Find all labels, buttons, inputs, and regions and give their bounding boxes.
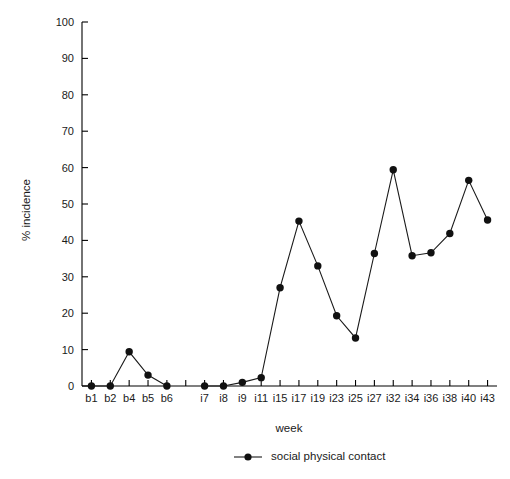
y-axis-tick-label: 50	[62, 198, 74, 210]
data-point	[276, 284, 283, 291]
x-axis-tick-label: i25	[348, 392, 363, 404]
data-point	[163, 382, 170, 389]
data-point	[201, 382, 208, 389]
x-axis-tick-labels: b1b2b4b5b6i7i8i9i11i15i17i19i23i25i27i32…	[85, 392, 495, 404]
y-axis-title: % incidence	[20, 179, 32, 241]
x-axis-tick-label: b5	[142, 392, 154, 404]
x-axis-tick-label: b1	[85, 392, 97, 404]
x-axis-tick-label: b2	[104, 392, 116, 404]
data-point	[390, 166, 397, 173]
data-point	[314, 262, 321, 269]
x-axis-tick-label: b4	[123, 392, 135, 404]
x-axis-tick-label: i38	[442, 392, 457, 404]
y-axis-tick-label: 30	[62, 271, 74, 283]
x-axis-tick-label: i40	[461, 392, 476, 404]
x-axis-tick-label: i43	[480, 392, 495, 404]
chart-legend: social physical contact	[234, 450, 386, 462]
line-chart: 0102030405060708090100 b1b2b4b5b6i7i8i9i…	[0, 0, 510, 479]
x-axis-tick-label: i32	[386, 392, 401, 404]
data-point	[371, 250, 378, 257]
y-axis-tick-label: 70	[62, 125, 74, 137]
y-axis-tick-labels: 0102030405060708090100	[56, 16, 74, 392]
series-social-physical-contact	[88, 166, 492, 390]
y-axis-tick-label: 0	[68, 380, 74, 392]
x-axis-tick-label: b6	[161, 392, 173, 404]
data-point	[352, 334, 359, 341]
y-axis-tick-label: 20	[62, 307, 74, 319]
x-axis-tick-label: i19	[310, 392, 325, 404]
data-point	[465, 177, 472, 184]
data-point	[220, 382, 227, 389]
series-line-path	[91, 170, 487, 386]
data-point	[125, 348, 132, 355]
chart-container: 0102030405060708090100 b1b2b4b5b6i7i8i9i…	[0, 0, 510, 479]
data-point	[484, 216, 491, 223]
data-point	[295, 217, 302, 224]
y-axis-tick-label: 60	[62, 162, 74, 174]
data-point	[446, 230, 453, 237]
y-axis-tick-label: 100	[56, 16, 74, 28]
x-axis-tick-label: i8	[219, 392, 228, 404]
x-axis-tick-label: i34	[405, 392, 420, 404]
x-axis-tick-label: i7	[200, 392, 209, 404]
data-point	[107, 382, 114, 389]
data-point	[144, 371, 151, 378]
data-point	[239, 379, 246, 386]
x-axis-tick-label: i9	[238, 392, 247, 404]
x-axis-tick-label: i11	[254, 392, 268, 404]
y-axis-tick-label: 10	[62, 344, 74, 356]
legend-marker-dot	[244, 453, 251, 460]
data-point	[427, 249, 434, 256]
x-axis-title: week	[275, 422, 303, 434]
x-axis-tick-label: i17	[292, 392, 307, 404]
y-axis-tick-label: 40	[62, 234, 74, 246]
data-point	[88, 382, 95, 389]
x-axis-tick-label: i23	[329, 392, 344, 404]
x-axis-tick-label: i36	[424, 392, 439, 404]
x-axis-tick-label: i15	[273, 392, 288, 404]
y-axis-tick-marks	[82, 22, 88, 386]
data-point	[258, 374, 265, 381]
y-axis-tick-label: 80	[62, 89, 74, 101]
x-axis-tick-marks	[91, 380, 487, 386]
legend-item-label: social physical contact	[271, 450, 386, 462]
x-axis-tick-label: i27	[367, 392, 382, 404]
data-point	[333, 312, 340, 319]
data-point	[408, 252, 415, 259]
series-data-points	[88, 166, 492, 390]
y-axis-tick-label: 90	[62, 52, 74, 64]
